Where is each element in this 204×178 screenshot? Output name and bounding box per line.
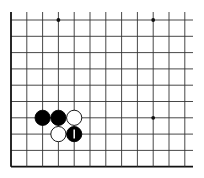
star-point-icon [151,18,155,22]
board-grid [11,12,193,167]
star-point-icon [151,116,155,120]
black-stone[interactable] [35,110,50,125]
black-stone[interactable] [67,127,82,142]
go-board[interactable] [0,0,204,178]
black-stone[interactable] [51,110,66,125]
white-stone[interactable] [51,127,66,142]
black-stone-icon [35,110,50,125]
white-stone[interactable] [67,110,82,125]
black-stone-icon [51,110,66,125]
white-stone-icon [67,110,82,125]
star-point-icon [57,18,61,22]
white-stone-icon [51,127,66,142]
